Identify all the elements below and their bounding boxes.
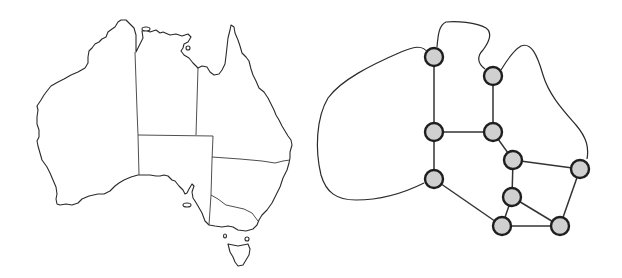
graph-outline [317, 47, 428, 200]
graph-node-n5 [504, 151, 522, 169]
graph-node-n1 [425, 48, 443, 66]
australia-map-svg [0, 0, 311, 278]
island-groote [186, 46, 190, 50]
australia-map [0, 0, 311, 278]
island-flinders [245, 237, 249, 241]
graph-node-n9 [493, 217, 511, 235]
graph-outline-top [437, 22, 490, 69]
tasmania [228, 244, 250, 266]
mainland-coastline [37, 20, 292, 231]
graph-node-n4 [484, 123, 502, 141]
island-bass-strait [224, 234, 227, 238]
island-tiwi [142, 27, 150, 31]
graph-node-n2 [484, 67, 502, 85]
constraint-graph [311, 0, 622, 278]
graph-node-n6 [571, 160, 589, 178]
graph-node-n8 [425, 170, 443, 188]
graph-node-n7 [503, 188, 521, 206]
constraint-graph-svg [311, 0, 622, 278]
graph-nodes [425, 48, 589, 235]
graph-outline-right [501, 45, 588, 159]
island-kangaroo [183, 203, 191, 207]
graph-node-n10 [551, 217, 569, 235]
graph-edge-n8-n9 [434, 179, 502, 226]
graph-node-n3 [425, 123, 443, 141]
